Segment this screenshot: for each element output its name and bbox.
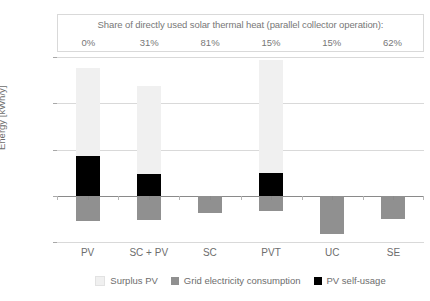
x-axis-tick-label-pv: PV [53, 247, 123, 258]
share-value-pv: 0% [58, 36, 119, 50]
y-axis-title: Energy [kWh/y] [0, 86, 7, 150]
share-value-uc: 15% [301, 36, 362, 50]
bar-segment-pv-self-usage-pvt[interactable] [259, 173, 283, 196]
bar-segment-surplus-pv-pv[interactable] [76, 68, 100, 156]
bar-segment-pv-self-usage-pv[interactable] [76, 156, 100, 196]
y-axis-tick-mark [53, 103, 57, 104]
gridline [57, 150, 424, 151]
gridline [57, 242, 424, 243]
x-axis-tick-mark [210, 196, 211, 200]
x-axis-minor-tick-mark [302, 196, 303, 200]
x-axis-tick-mark [149, 196, 150, 200]
x-axis-tick-label-sc-pv: SC + PV [114, 247, 184, 258]
chart-legend: Surplus PV Grid electricity consumption … [57, 275, 424, 286]
bar-group-sc-pv[interactable] [137, 57, 161, 242]
plot-area: 7 5005 0002 5000-2 500PVSC + PVSCPVTUCSE [57, 57, 424, 242]
x-axis-tick-label-se: SE [358, 247, 428, 258]
share-value-se: 62% [362, 36, 423, 50]
x-axis-minor-tick-mark [118, 196, 119, 200]
legend-label-grid-electricity: Grid electricity consumption [184, 275, 301, 286]
legend-label-pv-self-usage: PV self-usage [327, 275, 386, 286]
x-axis-minor-tick-mark [241, 196, 242, 200]
bar-segment-surplus-pv-pvt[interactable] [259, 60, 283, 173]
share-value-sc-pv: 31% [119, 36, 180, 50]
bar-group-uc[interactable] [320, 57, 344, 242]
legend-label-surplus-pv: Surplus PV [110, 275, 158, 286]
bar-group-sc[interactable] [198, 57, 222, 242]
share-value-sc: 81% [180, 36, 241, 50]
bar-segment-pv-self-usage-sc-pv[interactable] [137, 174, 161, 196]
gridline [57, 57, 424, 58]
gridline [57, 103, 424, 104]
legend-item-surplus-pv: Surplus PV [95, 275, 158, 286]
bar-group-pv[interactable] [76, 57, 100, 242]
legend-swatch-grid-electricity [171, 277, 179, 285]
bar-group-pvt[interactable] [259, 57, 283, 242]
y-axis-tick-mark [53, 242, 57, 243]
x-axis-tick-mark [393, 196, 394, 200]
legend-swatch-pv-self-usage [314, 277, 322, 285]
x-axis-tick-mark [271, 196, 272, 200]
legend-item-pv-self-usage: PV self-usage [314, 275, 386, 286]
share-value-pvt: 15% [240, 36, 301, 50]
legend-item-grid-electricity: Grid electricity consumption [171, 275, 301, 286]
bar-segment-surplus-pv-sc-pv[interactable] [137, 86, 161, 174]
share-annotation-title: Share of directly used solar thermal hea… [58, 19, 423, 30]
x-axis-tick-label-pvt: PVT [236, 247, 306, 258]
x-axis-tick-label-uc: UC [297, 247, 367, 258]
chart-figure: Share of directly used solar thermal hea… [0, 0, 430, 301]
x-axis-tick-mark [332, 196, 333, 200]
y-axis-tick-mark [53, 150, 57, 151]
share-annotation-values: 0% 31% 81% 15% 15% 62% [58, 36, 423, 50]
bar-segment-grid-electricity-uc[interactable] [320, 196, 344, 234]
legend-swatch-surplus-pv [95, 276, 105, 286]
x-axis-minor-tick-mark [363, 196, 364, 200]
y-axis-tick-mark [53, 57, 57, 58]
x-axis-minor-tick-mark [179, 196, 180, 200]
x-axis-tick-label-sc: SC [175, 247, 245, 258]
x-axis-minor-tick-mark [57, 196, 58, 200]
bar-group-se[interactable] [381, 57, 405, 242]
share-annotation-box: Share of directly used solar thermal hea… [57, 14, 424, 52]
x-axis-minor-tick-mark [423, 196, 424, 200]
x-axis-tick-mark [88, 196, 89, 200]
